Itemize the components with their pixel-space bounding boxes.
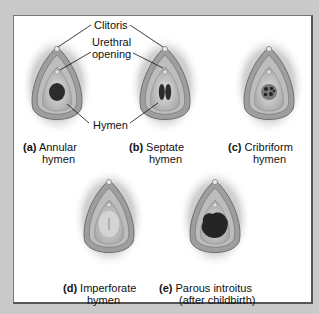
caption-text: Septate <box>146 141 184 153</box>
caption-imperforate: (d) Imperforate hymen <box>63 282 136 306</box>
caption-parous: (e) Parous introitus (after childbirth) <box>159 282 255 306</box>
caption-letter: (c) <box>228 141 241 153</box>
caption-line2: hymen <box>129 153 184 165</box>
label-hymen: Hymen <box>93 119 128 131</box>
figure-septate-hymen <box>129 35 201 135</box>
label-urethral-line2: opening <box>92 48 131 60</box>
caption-letter: (a) <box>23 141 36 153</box>
caption-text: Annular <box>39 141 77 153</box>
figure-imperforate-hymen <box>73 168 145 268</box>
caption-letter: (b) <box>129 141 143 153</box>
caption-text: Parous introitus <box>176 282 252 294</box>
figure-annular-hymen <box>21 35 93 135</box>
caption-line2: hymen <box>63 294 136 306</box>
label-urethral-line1: Urethral <box>92 36 131 48</box>
caption-cribriform: (c) Cribriform hymen <box>228 141 293 165</box>
caption-line2: hymen <box>228 153 293 165</box>
label-urethral-opening: Urethral opening <box>92 36 131 60</box>
label-clitoris: Clitoris <box>94 19 128 31</box>
caption-text: Cribriform <box>245 141 293 153</box>
caption-letter: (d) <box>63 282 77 294</box>
caption-line2: hymen <box>23 153 77 165</box>
caption-text: Imperforate <box>80 282 136 294</box>
caption-letter: (e) <box>159 282 172 294</box>
caption-septate: (b) Septate hymen <box>129 141 184 165</box>
figure-parous-introitus <box>179 168 251 268</box>
caption-annular: (a) Annular hymen <box>23 141 77 165</box>
caption-line2: (after childbirth) <box>159 294 255 306</box>
figure-cribriform-hymen <box>233 35 305 135</box>
